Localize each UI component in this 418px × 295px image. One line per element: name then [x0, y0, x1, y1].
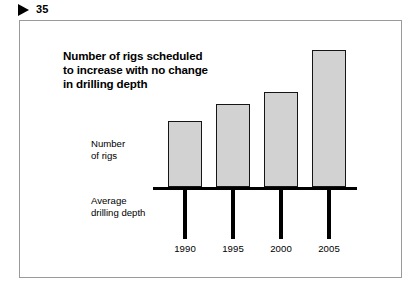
x-tick-label-2005: 2005 — [299, 243, 359, 255]
dropline-1990 — [183, 189, 187, 239]
dropline-2005 — [327, 189, 331, 239]
slide-frame: Number of rigs scheduled to increase wit… — [19, 20, 402, 278]
chart-plot-area: 1990199520002005 — [20, 21, 403, 279]
page-header: 35 — [0, 0, 418, 20]
dropline-2000 — [279, 189, 283, 239]
page-number: 35 — [36, 2, 49, 16]
dropline-1995 — [231, 189, 235, 239]
dropline-group — [20, 21, 403, 279]
triangle-right-icon — [18, 4, 29, 16]
